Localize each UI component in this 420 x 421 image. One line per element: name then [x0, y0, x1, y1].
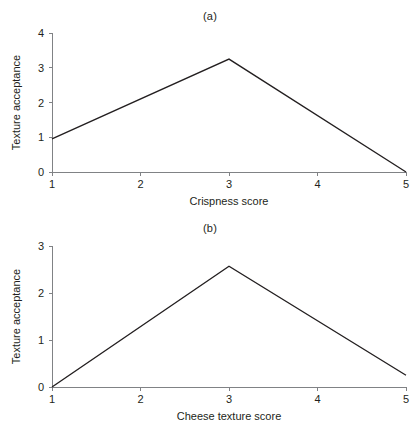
x-tick-label: 2	[137, 178, 143, 190]
data-series-line	[52, 59, 406, 172]
y-tick-label: 4	[38, 27, 44, 39]
x-axis-title: Crispness score	[190, 195, 269, 207]
y-tick-label: 1	[38, 131, 44, 143]
y-tick-label: 3	[38, 62, 44, 74]
data-series-line	[52, 266, 406, 387]
panel-b-plot: 012312345Cheese texture scoreTexture acc…	[0, 210, 420, 421]
y-tick-label: 0	[38, 381, 44, 393]
y-tick-label: 0	[38, 166, 44, 178]
y-axis-title: Texture acceptance	[10, 55, 22, 150]
y-tick-label: 2	[38, 287, 44, 299]
y-tick-label: 1	[38, 334, 44, 346]
x-tick-label: 1	[49, 393, 55, 405]
x-tick-label: 5	[403, 178, 409, 190]
chart-panel-a: (a) 0123412345Crispness scoreTexture acc…	[0, 0, 420, 210]
y-tick-label: 3	[38, 240, 44, 252]
x-tick-label: 1	[49, 178, 55, 190]
x-tick-label: 4	[314, 178, 320, 190]
figure-container: (a) 0123412345Crispness scoreTexture acc…	[0, 0, 420, 421]
y-axis-title: Texture acceptance	[10, 269, 22, 364]
x-tick-label: 5	[403, 393, 409, 405]
x-tick-label: 4	[314, 393, 320, 405]
y-tick-label: 2	[38, 97, 44, 109]
panel-a-plot: 0123412345Crispness scoreTexture accepta…	[0, 0, 420, 210]
x-axis-title: Cheese texture score	[177, 410, 282, 421]
x-tick-label: 3	[226, 393, 232, 405]
x-tick-label: 3	[226, 178, 232, 190]
x-tick-label: 2	[137, 393, 143, 405]
chart-panel-b: (b) 012312345Cheese texture scoreTexture…	[0, 210, 420, 421]
